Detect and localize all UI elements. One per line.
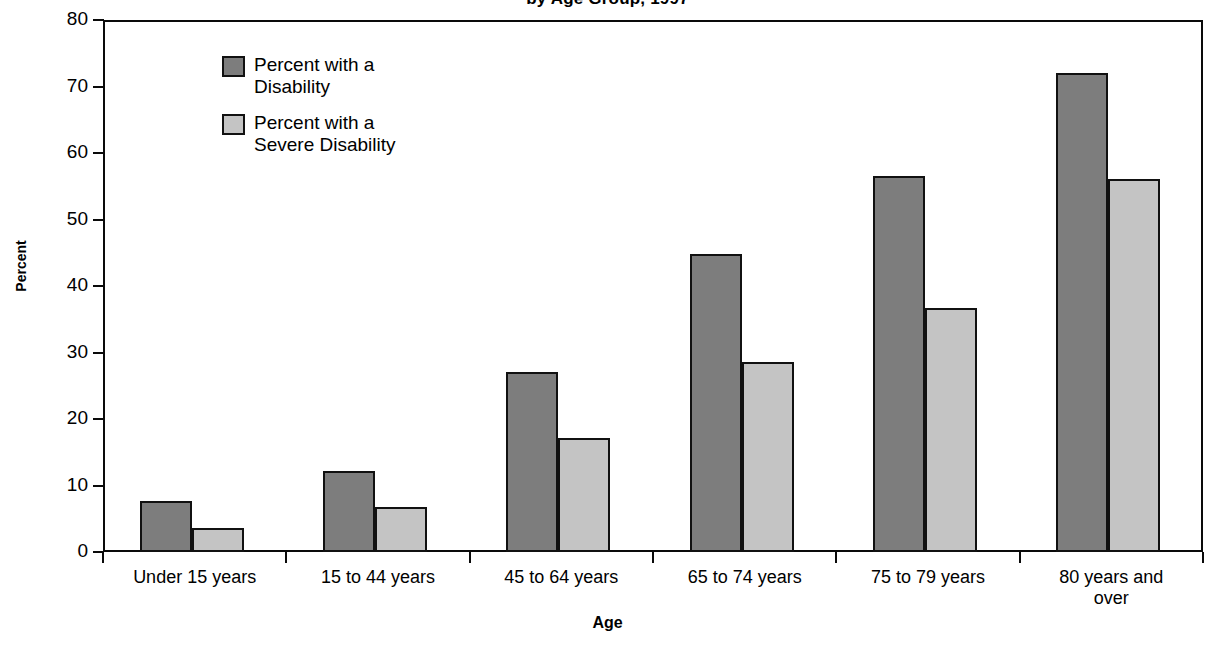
legend-label: Percent with a Disability — [254, 54, 374, 98]
bar — [1056, 73, 1108, 552]
x-axis-tick — [469, 552, 471, 563]
y-axis-tick-value: 70 — [67, 76, 88, 95]
x-axis-tick — [1202, 552, 1204, 563]
bar — [506, 372, 558, 552]
x-axis-category-label: 15 to 44 years — [286, 567, 469, 588]
bar — [558, 438, 610, 552]
bar — [925, 308, 977, 552]
y-axis-tick-value: 0 — [77, 541, 88, 560]
legend-swatch — [222, 114, 245, 135]
y-axis-title: Percent — [13, 226, 29, 306]
x-axis-tick — [1019, 552, 1021, 563]
x-axis-tick — [285, 552, 287, 563]
chart-title: by Age Group, 1997 — [0, 0, 1215, 9]
y-axis-tick-value: 20 — [67, 408, 88, 427]
x-axis-category-label: 45 to 64 years — [470, 567, 653, 588]
legend-item: Percent with a Severe Disability — [222, 112, 396, 156]
y-axis-tick-value: 50 — [67, 209, 88, 228]
y-axis-tick-value: 30 — [67, 342, 88, 361]
x-axis-category-label: 75 to 79 years — [836, 567, 1019, 588]
x-axis-category-label: 65 to 74 years — [653, 567, 836, 588]
chart-legend: Percent with a DisabilityPercent with a … — [222, 54, 396, 170]
x-axis-category-label: 80 years and over — [1020, 567, 1203, 609]
x-axis-category-label: Under 15 years — [103, 567, 286, 588]
bar — [873, 176, 925, 552]
x-axis-tick — [835, 552, 837, 563]
bar — [690, 254, 742, 552]
y-axis-tick-value: 80 — [67, 9, 88, 28]
x-axis-tick — [652, 552, 654, 563]
x-axis-title: Age — [0, 614, 1215, 632]
legend-label: Percent with a Severe Disability — [254, 112, 396, 156]
bar — [140, 501, 192, 552]
bar — [742, 362, 794, 552]
bar — [1108, 179, 1160, 552]
bar — [375, 507, 427, 552]
bar — [192, 528, 244, 552]
y-axis-tick-value: 40 — [67, 275, 88, 294]
bar — [323, 471, 375, 552]
y-axis-tick-value: 60 — [67, 142, 88, 161]
y-axis-tick-value: 10 — [67, 475, 88, 494]
legend-swatch — [222, 56, 245, 77]
legend-item: Percent with a Disability — [222, 54, 396, 98]
chart-figure: by Age Group, 1997 Percent 0102030405060… — [0, 0, 1215, 645]
x-axis-tick — [102, 552, 104, 563]
